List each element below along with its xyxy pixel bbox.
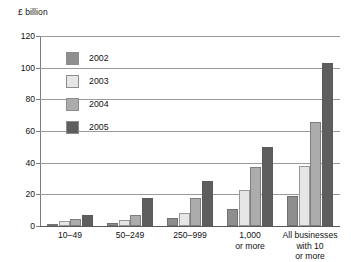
y-axis-tick — [36, 99, 40, 100]
y-axis-label: 60 — [4, 126, 35, 136]
x-axis-label: All businesses with 10 or more — [265, 230, 351, 262]
y-axis-label: 20 — [4, 189, 35, 199]
y-axis-tick — [36, 163, 40, 164]
y-axis-label: 100 — [4, 63, 35, 73]
y-axis-tick — [36, 194, 40, 195]
legend-swatch-icon — [66, 98, 79, 111]
y-axis-unit-title: £ billion — [18, 7, 48, 17]
legend-swatch-icon — [66, 52, 79, 65]
y-axis-tick — [36, 131, 40, 132]
bar-2005-1 — [142, 198, 153, 227]
bar-2005-4 — [322, 63, 333, 226]
y-axis-label: 120 — [4, 31, 35, 41]
bar-2005-2 — [202, 181, 213, 226]
bar-2003-3 — [239, 190, 250, 226]
bar-2005-0 — [82, 215, 93, 226]
y-axis-label: 40 — [4, 158, 35, 168]
y-axis-tick — [36, 226, 40, 227]
legend-label: 2002 — [89, 52, 109, 65]
bar-2003-1 — [119, 220, 130, 226]
legend-label: 2003 — [89, 75, 109, 88]
bar-2003-2 — [179, 213, 190, 226]
bar-2002-4 — [287, 196, 298, 226]
y-axis-label: 80 — [4, 94, 35, 104]
bar-2004-0 — [70, 219, 81, 226]
bar-group — [287, 36, 333, 226]
bar-2004-2 — [190, 198, 201, 227]
legend-label: 2004 — [89, 98, 109, 111]
bar-2004-3 — [250, 167, 261, 226]
bar-2002-1 — [107, 223, 118, 226]
bar-2003-4 — [299, 166, 310, 226]
bar-group — [107, 36, 153, 226]
bar-2002-2 — [167, 218, 178, 226]
legend-label: 2005 — [89, 121, 109, 134]
bar-group — [227, 36, 273, 226]
bar-2005-3 — [262, 147, 273, 226]
plot-area: 020406080100120 — [40, 36, 340, 226]
bar-chart: £ billion 020406080100120 20022003200420… — [0, 0, 351, 262]
legend-swatch-icon — [66, 121, 79, 134]
bar-2004-4 — [310, 122, 321, 227]
bar-2002-0 — [47, 224, 58, 226]
bar-group — [167, 36, 213, 226]
bar-2004-1 — [130, 215, 141, 226]
gridline — [40, 226, 340, 227]
legend-swatch-icon — [66, 75, 79, 88]
y-axis-tick — [36, 68, 40, 69]
bar-2002-3 — [227, 209, 238, 226]
y-axis-tick — [36, 36, 40, 37]
bar-2003-0 — [59, 221, 70, 226]
